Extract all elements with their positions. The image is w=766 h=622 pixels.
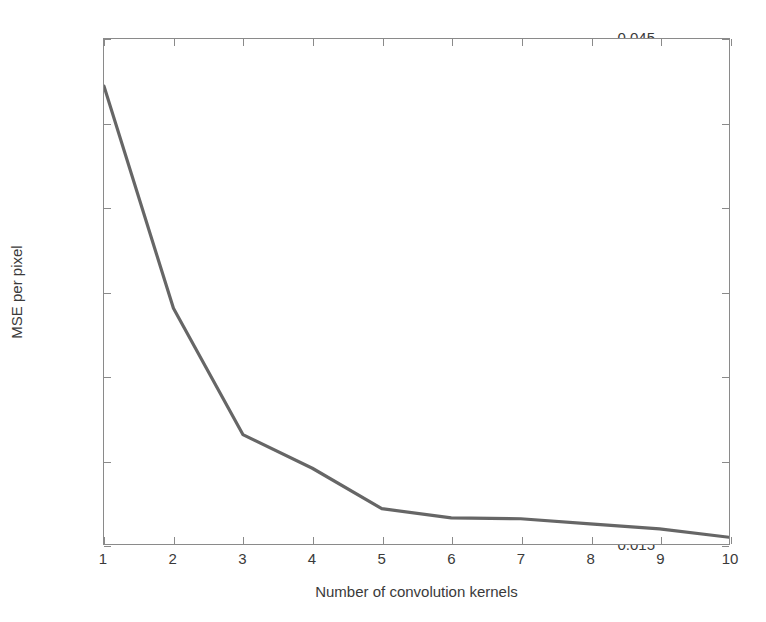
y-axis-title: MSE per pixel	[8, 245, 25, 338]
x-tick-mark	[452, 537, 453, 544]
y-tick-mark-right	[722, 208, 729, 209]
x-tick-mark-top	[452, 39, 453, 46]
x-tick-label: 7	[501, 551, 541, 566]
x-tick-label: 10	[710, 551, 750, 566]
x-tick-mark-top	[592, 39, 593, 46]
plot-area	[103, 38, 730, 545]
x-tick-mark-top	[104, 39, 105, 46]
x-tick-mark	[522, 537, 523, 544]
x-axis-title: Number of convolution kernels	[103, 583, 730, 600]
y-tick-mark	[104, 124, 111, 125]
x-tick-mark-top	[243, 39, 244, 46]
x-tick-label: 3	[222, 551, 262, 566]
x-tick-mark-top	[174, 39, 175, 46]
x-tick-mark	[592, 537, 593, 544]
x-tick-mark	[104, 537, 105, 544]
x-tick-mark	[383, 537, 384, 544]
x-tick-mark-top	[522, 39, 523, 46]
x-tick-mark-top	[313, 39, 314, 46]
x-tick-label: 8	[571, 551, 611, 566]
y-tick-mark	[104, 462, 111, 463]
x-tick-label: 6	[431, 551, 471, 566]
y-tick-mark	[104, 546, 111, 547]
series-polyline	[104, 86, 729, 537]
x-tick-mark	[731, 537, 732, 544]
chart-figure: 0.0150.020.0250.030.0350.040.045 MSE per…	[0, 0, 766, 622]
x-tick-label: 1	[83, 551, 123, 566]
x-tick-mark-top	[661, 39, 662, 46]
y-tick-mark-right	[722, 462, 729, 463]
y-tick-mark-right	[722, 546, 729, 547]
data-line-series	[104, 39, 729, 544]
x-tick-label: 9	[640, 551, 680, 566]
x-tick-mark	[174, 537, 175, 544]
y-tick-mark-right	[722, 377, 729, 378]
y-tick-mark-right	[722, 293, 729, 294]
y-tick-mark-right	[722, 124, 729, 125]
y-tick-mark	[104, 39, 111, 40]
x-tick-label: 5	[362, 551, 402, 566]
x-tick-mark	[243, 537, 244, 544]
x-tick-mark-top	[383, 39, 384, 46]
y-tick-mark	[104, 377, 111, 378]
y-tick-mark-right	[722, 39, 729, 40]
y-tick-mark	[104, 293, 111, 294]
x-tick-label: 2	[153, 551, 193, 566]
y-tick-mark	[104, 208, 111, 209]
x-tick-mark	[661, 537, 662, 544]
x-tick-mark-top	[731, 39, 732, 46]
x-tick-label: 4	[292, 551, 332, 566]
x-tick-mark	[313, 537, 314, 544]
